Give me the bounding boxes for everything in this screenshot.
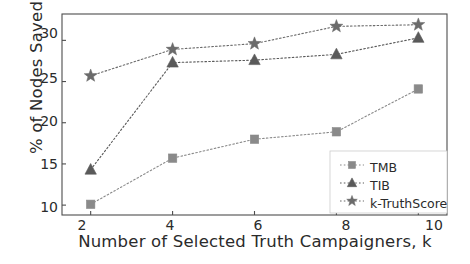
plot-area — [0, 0, 470, 264]
square-marker-icon — [349, 162, 356, 169]
square-marker-icon — [168, 154, 176, 162]
legend-label-tib: TIB — [370, 178, 390, 193]
star-marker-icon — [248, 37, 261, 49]
square-marker-icon — [414, 85, 422, 93]
triangle-marker-icon — [167, 56, 178, 67]
triangle-marker-icon — [413, 32, 424, 43]
star-marker-icon — [412, 18, 425, 30]
square-marker-icon — [332, 128, 340, 136]
legend-label-k-truthscore: k-TruthScore — [370, 196, 447, 211]
chart-figure: % of Nodes Saved 30 25 20 15 10 2 4 6 8 … — [0, 0, 470, 264]
triangle-marker-icon — [331, 48, 342, 59]
legend-label-tmb: TMB — [370, 160, 397, 175]
star-marker-icon — [330, 20, 343, 32]
triangle-marker-icon — [249, 54, 260, 65]
series-line-k-truthscore — [91, 25, 419, 76]
square-marker-icon — [250, 135, 258, 143]
square-marker-icon — [86, 200, 94, 208]
triangle-marker-icon — [85, 163, 96, 174]
star-marker-icon — [166, 43, 179, 55]
star-marker-icon — [84, 69, 97, 81]
